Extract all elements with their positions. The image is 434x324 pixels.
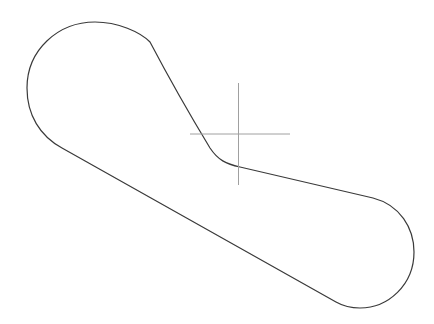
canvas-background	[0, 0, 434, 324]
drawing-canvas[interactable]	[0, 0, 434, 324]
